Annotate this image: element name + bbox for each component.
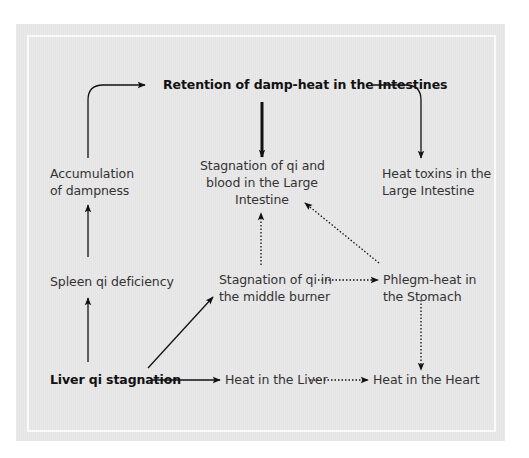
node-label: Spleen qi deficiency	[50, 274, 174, 289]
node-label-line1: Stagnation of qi in	[219, 271, 332, 288]
node-spleen-qi-deficiency: Spleen qi deficiency	[50, 273, 174, 290]
node-label: Retention of damp-heat in the Intestines	[163, 77, 447, 92]
arrow-liver-to-middle-burner	[148, 297, 213, 368]
node-label: Heat in the Liver	[225, 372, 327, 387]
node-middle-burner-stagnation: Stagnation of qi in the middle burner	[219, 271, 332, 305]
node-label-line1: Stagnation of qi and	[200, 157, 324, 174]
node-label-line2: the middle burner	[219, 288, 332, 305]
node-retention-damp-heat: Retention of damp-heat in the Intestines	[163, 76, 447, 93]
node-label-line1: Heat toxins in the	[382, 165, 491, 182]
arrow-phlegm-to-stagnation	[305, 203, 379, 263]
node-accumulation-dampness: Accumulation of dampness	[50, 165, 134, 199]
node-label-line1: Accumulation	[50, 165, 134, 182]
node-label: Liver qi stagnation	[50, 372, 181, 387]
arrow-accumulation-to-retention	[88, 85, 145, 158]
node-liver-qi-stagnation: Liver qi stagnation	[50, 371, 181, 388]
node-heat-in-liver: Heat in the Liver	[225, 371, 327, 388]
node-stagnation-large-intestine: Stagnation of qi and blood in the Large …	[200, 157, 324, 208]
node-heat-in-heart: Heat in the Heart	[373, 371, 480, 388]
node-label-line3: Intestine	[200, 191, 324, 208]
arrow-retention-to-heat-toxins	[373, 85, 421, 158]
arrow-layer	[0, 0, 529, 458]
node-label-line2: of dampness	[50, 182, 134, 199]
node-label-line2: the Stomach	[383, 288, 476, 305]
node-label-line2: blood in the Large	[200, 174, 324, 191]
node-label-line2: Large Intestine	[382, 182, 491, 199]
node-heat-toxins: Heat toxins in the Large Intestine	[382, 165, 491, 199]
node-label: Heat in the Heart	[373, 372, 480, 387]
node-phlegm-heat-stomach: Phlegm-heat in the Stomach	[383, 271, 476, 305]
node-label-line1: Phlegm-heat in	[383, 271, 476, 288]
